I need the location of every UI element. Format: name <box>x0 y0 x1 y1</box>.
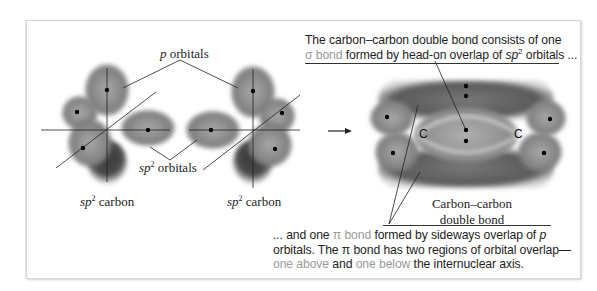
sigma-bond-highlight: σ bond <box>305 48 342 62</box>
atom-left-label: C <box>419 127 428 141</box>
one-below-highlight: one below <box>356 257 411 271</box>
atom-right-label: C <box>514 127 523 141</box>
sp2-orbitals-leader-right <box>170 140 197 160</box>
sp2-carbon-right-label: sp2 carbon <box>227 194 281 210</box>
reaction-arrow-icon <box>328 128 352 134</box>
right-sp2-carbon <box>186 66 300 188</box>
sp2-orbitals-leader-left <box>150 147 170 160</box>
sp2-carbon-left-label: sp2 carbon <box>80 194 134 210</box>
pi-bond-highlight: π bond <box>333 228 371 242</box>
sigma-note-underline <box>305 63 559 64</box>
p-orbitals-leader-right <box>180 60 238 88</box>
pi-bond-note: ... and one π bond formed by sideways ov… <box>273 228 573 272</box>
one-above-highlight: one above <box>273 257 329 271</box>
p-orbitals-leader-left <box>123 60 180 88</box>
sp2-orbitals-label: sp2 orbitals <box>139 160 197 176</box>
sigma-bond-note: The carbon–carbon double bond consists o… <box>305 33 585 62</box>
carbon-carbon-double-bond-label: Carbon–carbon double bond <box>430 196 514 228</box>
p-orbitals-label: p orbitals <box>160 46 209 62</box>
pi-note-rule <box>383 225 551 226</box>
double-bond-molecule: C C <box>370 80 566 188</box>
